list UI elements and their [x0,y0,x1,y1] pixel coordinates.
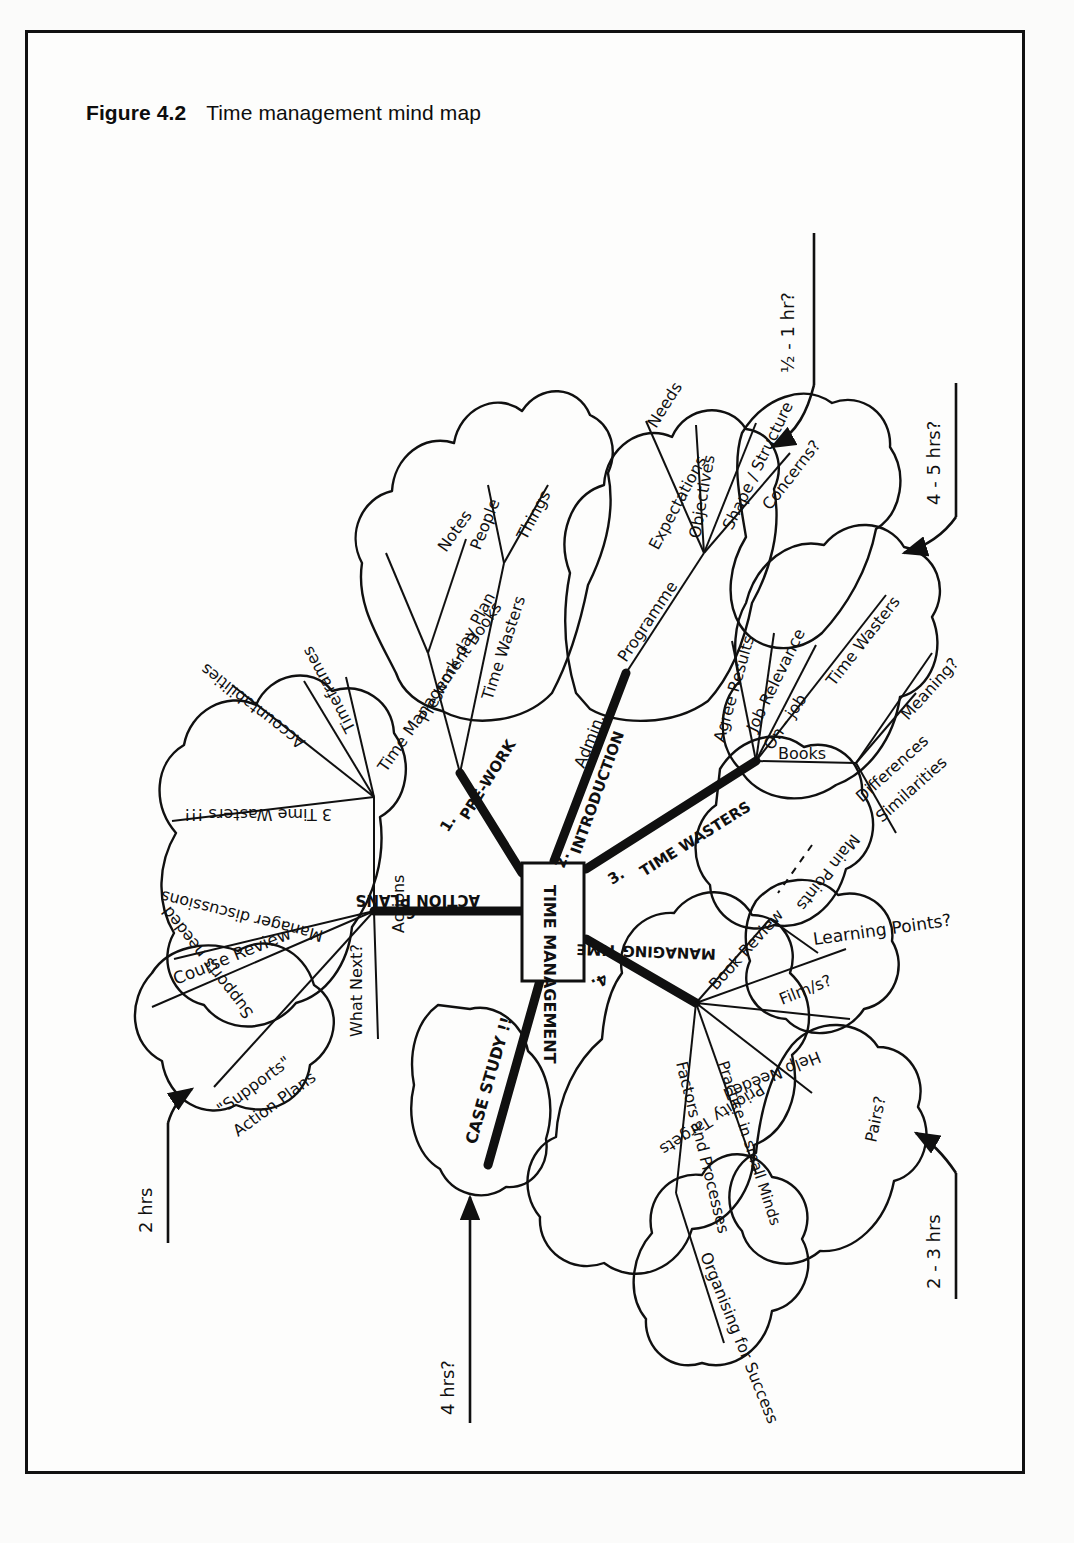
label-organising-for-success: Organising for Success [696,1249,782,1426]
center-node-label: TIME MANAGEMENT [540,885,559,1064]
figure-caption: Figure 4.2Time management mind map [86,101,481,125]
label-main-points: Main Points [793,831,864,915]
annotation-four-five-hrs: 4 - 5 hrs? [923,421,944,505]
label-pre-work-day-plan: Pre work-day Plan [415,589,499,725]
label-pairs: Pairs? [861,1094,889,1144]
branch-label-managing-time-number: 4. [588,970,611,994]
label-learning-points: Learning Points? [812,910,953,949]
label-programme: Programme [614,578,682,666]
label-things: Things [512,487,554,544]
annotation-four-hrs: 4 hrs? [437,1360,458,1415]
label-time-wasters-sub: Time Wasters [822,592,904,690]
label-films: Film/s? [776,971,834,1009]
label-what-next: What Next? [347,944,366,1037]
branch-label-action-plans: ACTION PLANS [356,891,480,909]
label-books: Books [778,744,826,763]
center-node[interactable]: TIME MANAGEMENT [522,863,584,1064]
label-notes: Notes [434,507,476,556]
branch-label-time-wasters-number: 3. [605,865,628,889]
annotation-half-to-one-hr: ½ - 1 hr? [777,292,798,373]
figure-number: Figure 4.2 [86,101,186,124]
figure-frame: Figure 4.2Time management mind map [25,30,1025,1474]
branch-label-time-wasters: TIME WASTERS [637,798,755,881]
branch-label-pre-work: 1. [436,812,460,835]
branch-label-managing-time: MANAGING TIME [576,940,716,963]
figure-title: Time management mind map [206,101,481,124]
label-3-time-wasters: 3 Time Wasters !!! [184,805,332,824]
mindmap-diagram: TIME MANAGEMENT Time Management Books No… [56,133,1000,1473]
annotation-two-hrs: 2 hrs [135,1188,156,1233]
page-background: Figure 4.2Time management mind map [0,0,1074,1543]
label-people: People [466,496,504,552]
annotation-two-three-hrs: 2 - 3 hrs [923,1214,944,1289]
